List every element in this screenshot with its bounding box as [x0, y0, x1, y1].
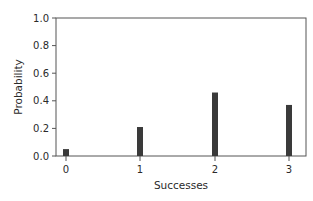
x-axis-title: Successes: [154, 179, 208, 191]
x-tick-label: 3: [286, 164, 292, 175]
y-tick-label: 0.2: [33, 123, 49, 134]
y-tick-label: 0.0: [33, 151, 49, 162]
plot-frame: [56, 18, 306, 156]
x-axis: 0123: [63, 156, 292, 175]
x-tick-label: 2: [212, 164, 218, 175]
y-tick-label: 1.0: [33, 13, 49, 24]
bar-0: [63, 149, 69, 156]
y-axis-title: Probability: [12, 59, 24, 115]
probability-bar-chart: 0.00.20.40.60.81.0 0123 Successes Probab…: [0, 0, 313, 201]
bar-3: [286, 105, 292, 156]
x-tick-label: 0: [63, 164, 69, 175]
y-axis: 0.00.20.40.60.81.0: [33, 13, 56, 162]
bar-1: [137, 127, 143, 156]
bar-2: [212, 93, 218, 156]
y-tick-label: 0.6: [33, 68, 49, 79]
y-tick-label: 0.8: [33, 40, 49, 51]
y-tick-label: 0.4: [33, 95, 49, 106]
x-tick-label: 1: [137, 164, 143, 175]
bars: [63, 93, 292, 156]
